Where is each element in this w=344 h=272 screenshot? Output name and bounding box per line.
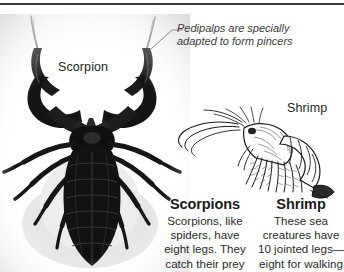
caption-scorpions-heading: Scorpions [152, 196, 258, 213]
caption-line: spiders, have [152, 228, 258, 242]
caption-shrimp: Shrimp These sea creatures have 10 joint… [258, 196, 344, 271]
caption-line: 10 jointed legs— [258, 242, 344, 256]
caption-line: creatures have [258, 228, 344, 242]
caption-line: catch their prey [152, 257, 258, 271]
caption-scorpions-body: Scorpions, like spiders, have eight legs… [152, 214, 258, 271]
caption-shrimp-body: These sea creatures have 10 jointed legs… [258, 214, 344, 271]
caption-line: eight legs. They [152, 242, 258, 256]
callout-line-2: adapted to form pincers [177, 35, 341, 48]
caption-scorpions: Scorpions Scorpions, like spiders, have … [152, 196, 258, 271]
top-divider-rule [0, 3, 344, 5]
label-shrimp: Shrimp [287, 101, 327, 115]
label-scorpion: Scorpion [58, 60, 108, 74]
shrimp-illustration [176, 106, 344, 204]
caption-line: These sea [258, 214, 344, 228]
page-root: Scorpion Shrimp Pedipalps are specially … [0, 0, 344, 272]
callout-pedipalps: Pedipalps are specially adapted to form … [177, 22, 341, 49]
callout-line-1: Pedipalps are specially [177, 22, 341, 35]
caption-line: Scorpions, like [152, 214, 258, 228]
caption-line: eight for walking [258, 257, 344, 271]
caption-shrimp-heading: Shrimp [258, 196, 344, 213]
